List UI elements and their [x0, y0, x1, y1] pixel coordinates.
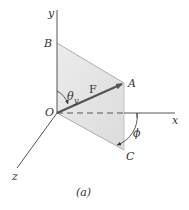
figure-caption: (a): [76, 186, 91, 199]
theta-subscript-label: y: [73, 96, 79, 105]
vector-F-label: F: [89, 83, 97, 96]
theta-label: θ: [67, 90, 74, 103]
point-A-label: A: [127, 77, 136, 90]
z-axis: [17, 113, 57, 168]
x-axis-label: x: [172, 114, 179, 127]
z-axis-label: z: [11, 170, 18, 183]
point-C-label: C: [126, 150, 135, 163]
point-B-label: B: [43, 37, 52, 50]
origin-O-label: O: [45, 106, 54, 119]
phi-label: ϕ: [133, 127, 141, 140]
force-vector-diagram: y x z B A C O F θ y ϕ (a): [0, 0, 189, 210]
y-axis-label: y: [47, 7, 55, 20]
